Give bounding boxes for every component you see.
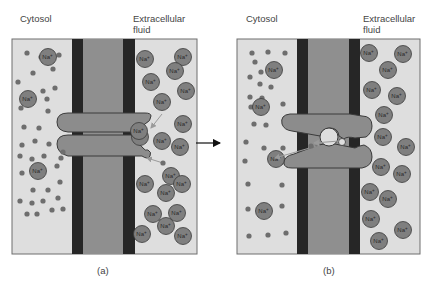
extracellular-sodium-ion: Na+ — [154, 94, 171, 111]
ion-dot — [60, 149, 65, 154]
extracellular-sodium-ion: Na+ — [178, 83, 195, 100]
extracellular-sodium-ion: Na+ — [375, 129, 392, 146]
ion-dot — [283, 230, 288, 235]
channel-pore-small — [339, 139, 346, 146]
ion-dot — [32, 138, 37, 143]
ion-dot — [45, 108, 50, 113]
extracellular-sodium-ion: Na+ — [376, 107, 393, 124]
ion-dot — [40, 88, 45, 93]
ion-dot — [265, 49, 270, 54]
ion-dot — [46, 141, 51, 146]
ion-dot — [245, 181, 250, 186]
ion-dot — [160, 160, 165, 165]
ion-dot — [308, 143, 313, 148]
extracellular-sodium-ion: Na+ — [373, 159, 390, 176]
extracellular-sodium-ion: Na+ — [137, 176, 154, 193]
ion-dot — [60, 206, 65, 211]
sodium-channel-diagram: Na+Na+Na+Na+Na+Na+Na+Na+Na+Na+Na+Na+Na+N… — [0, 0, 434, 284]
ion-dot — [21, 124, 26, 129]
cytosol-sodium-ion: Na+ — [20, 91, 37, 108]
extracellular-sodium-ion: Na+ — [361, 45, 378, 62]
ion-dot — [247, 94, 252, 99]
extracellular-sodium-ion: Na+ — [172, 139, 189, 156]
extracellular-sodium-ion: Na+ — [175, 116, 192, 133]
ion-dot — [252, 59, 257, 64]
ion-dot — [279, 203, 284, 208]
cytosol-sodium-ion: Na+ — [253, 99, 270, 116]
extracellular-sodium-ion: Na+ — [158, 218, 175, 235]
extracellular-sodium-ion: Na+ — [364, 82, 381, 99]
extracellular-sodium-ion: Na+ — [167, 63, 184, 80]
ion-dot — [245, 206, 250, 211]
extracellular-sodium-ion: Na+ — [389, 88, 406, 105]
extracellular-sodium-ion: Na+ — [363, 211, 380, 228]
extracellular-sodium-ion: Na+ — [395, 222, 412, 239]
extracellular-sodium-ion: Na+ — [398, 139, 415, 156]
cytosol-sodium-ion: Na+ — [268, 151, 285, 168]
ion-dot — [55, 195, 60, 200]
cytosol-sodium-ion: Na+ — [30, 163, 47, 180]
entering-sodium-ion: Na+ — [131, 123, 148, 140]
ion-dot — [54, 163, 59, 168]
ion-dot — [17, 153, 22, 158]
extracellular-sodium-ion: Na+ — [143, 74, 160, 91]
ion-dot — [282, 50, 287, 55]
ion-dot — [56, 52, 61, 57]
ion-dot — [280, 101, 285, 106]
ion-dot — [268, 84, 273, 89]
ion-dot — [258, 69, 263, 74]
ion-dot — [44, 96, 49, 101]
ion-dot — [34, 211, 39, 216]
ion-dot — [19, 170, 24, 175]
ion-dot — [247, 74, 252, 79]
ion-dot — [265, 232, 270, 237]
extracellular-sodium-ion: Na+ — [158, 185, 175, 202]
ion-dot — [249, 50, 254, 55]
extracellular-sodium-ion: Na+ — [380, 191, 397, 208]
ion-dot — [52, 85, 57, 90]
ion-dot — [29, 200, 34, 205]
extracellular-sodium-ion: Na+ — [175, 228, 192, 245]
ion-dot — [251, 121, 256, 126]
extracellular-sodium-ion: Na+ — [145, 206, 162, 223]
ion-dot — [17, 198, 22, 203]
ion-dot — [30, 187, 35, 192]
ion-dot — [49, 207, 54, 212]
ion-dot — [263, 122, 268, 127]
ion-dot — [57, 179, 62, 184]
ion-dot — [246, 233, 251, 238]
ion-dot — [19, 142, 24, 147]
extracellular-sodium-ion: Na+ — [134, 226, 151, 243]
extracellular-sodium-ion: Na+ — [371, 233, 388, 250]
ion-dot — [257, 81, 262, 86]
extracellular-sodium-ion: Na+ — [137, 51, 154, 68]
channel-pore-bulge — [320, 128, 338, 146]
ion-dot — [45, 187, 50, 192]
ion-dot — [261, 145, 266, 150]
ion-dot — [15, 79, 20, 84]
ion-dot — [24, 50, 29, 55]
extracellular-sodium-ion: Na+ — [395, 46, 412, 63]
cytosol-sodium-ion: Na+ — [266, 62, 283, 79]
ion-dot — [242, 158, 247, 163]
ion-dot — [30, 70, 35, 75]
ion-dot — [41, 153, 46, 158]
cytosol-sodium-ion: Na+ — [40, 49, 57, 66]
ion-dot — [29, 156, 34, 161]
ion-dot — [50, 66, 55, 71]
extracellular-sodium-ion: Na+ — [380, 62, 397, 79]
ion-dot — [243, 139, 248, 144]
cytosol-sodium-ion: Na+ — [256, 203, 273, 220]
ion-dot — [40, 198, 45, 203]
membrane-inner-leaflet-b — [297, 39, 308, 254]
ion-dot — [279, 182, 284, 187]
extracellular-sodium-ion: Na+ — [174, 176, 191, 193]
ion-dot — [36, 125, 41, 130]
extracellular-sodium-ion: Na+ — [394, 166, 411, 183]
ion-dot — [280, 145, 285, 150]
extracellular-sodium-ion: Na+ — [154, 133, 171, 150]
ion-dot — [58, 155, 63, 160]
ion-dot — [24, 211, 29, 216]
extracellular-sodium-ion: Na+ — [362, 184, 379, 201]
